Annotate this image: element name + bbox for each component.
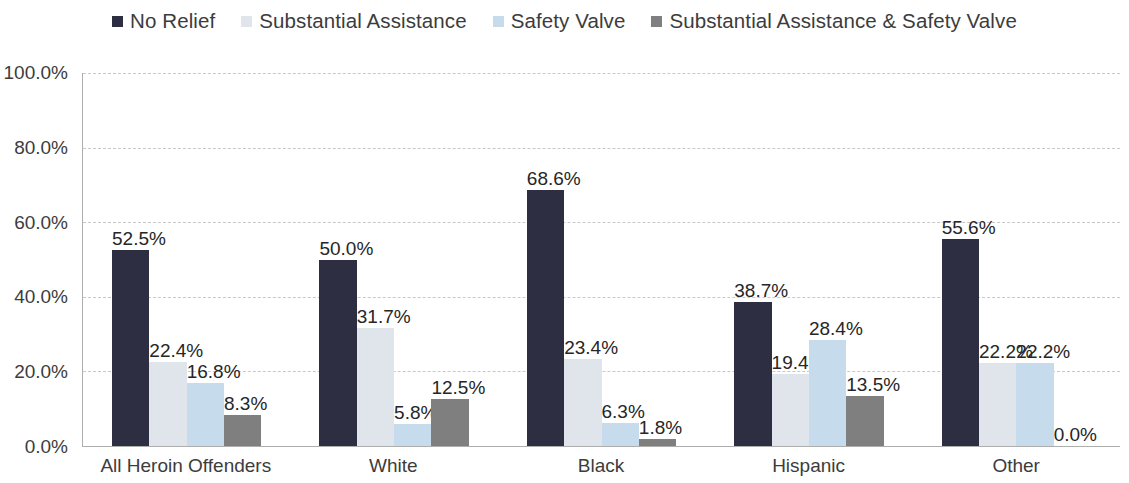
y-axis-tick-label: 80.0%	[14, 137, 68, 159]
bar[interactable]: 6.3%	[602, 423, 639, 446]
y-axis-tick-label: 100.0%	[4, 62, 68, 84]
bar-value-label: 8.3%	[224, 394, 261, 415]
bar-value-label: 52.5%	[112, 229, 149, 250]
x-axis-category-label: Other	[912, 449, 1120, 483]
bar-slot: 0.0%	[1054, 73, 1091, 446]
bar[interactable]: 52.5%	[112, 250, 149, 446]
bar-group-bars: 50.0%31.7%5.8%12.5%	[319, 73, 468, 446]
bar-group-bars: 55.6%22.2%22.2%0.0%	[942, 73, 1091, 446]
bar-slot: 22.2%	[979, 73, 1016, 446]
bar-value-label: 13.5%	[846, 375, 883, 396]
bar[interactable]: 16.8%	[187, 383, 224, 446]
legend-item[interactable]: Substantial Assistance	[241, 11, 466, 32]
bar-value-label: 5.8%	[394, 403, 431, 424]
bar[interactable]: 22.2%	[979, 363, 1016, 446]
bar[interactable]: 22.4%	[149, 362, 186, 446]
bar-value-label: 22.2%	[979, 342, 1016, 363]
bar-slot: 55.6%	[942, 73, 979, 446]
bar-slot: 16.8%	[187, 73, 224, 446]
bar-slot: 19.4%	[772, 73, 809, 446]
bar[interactable]: 19.4%	[772, 374, 809, 446]
bar[interactable]: 38.7%	[734, 302, 771, 446]
bar[interactable]: 31.7%	[357, 328, 394, 446]
bar-slot: 13.5%	[846, 73, 883, 446]
bar-value-label: 68.6%	[527, 169, 564, 190]
x-axis-category-label: All Heroin Offenders	[82, 449, 290, 483]
plot-area: 52.5%22.4%16.8%8.3%50.0%31.7%5.8%12.5%68…	[82, 73, 1120, 447]
bar-slot: 38.7%	[734, 73, 771, 446]
bar[interactable]: 13.5%	[846, 396, 883, 446]
plot-wrapper: 0.0%20.0%40.0%60.0%80.0%100.0% 52.5%22.4…	[0, 38, 1129, 483]
legend-item-label: Safety Valve	[511, 11, 626, 32]
bar-group-bars: 68.6%23.4%6.3%1.8%	[527, 73, 676, 446]
bar-value-label: 23.4%	[564, 338, 601, 359]
bar-groups: 52.5%22.4%16.8%8.3%50.0%31.7%5.8%12.5%68…	[83, 73, 1120, 446]
bar-group-bars: 38.7%19.4%28.4%13.5%	[734, 73, 883, 446]
y-axis-tick-label: 60.0%	[14, 212, 68, 234]
legend-swatch-icon	[112, 16, 123, 27]
legend-swatch-icon	[493, 16, 504, 27]
bar[interactable]: 50.0%	[319, 260, 356, 447]
bar-group: 38.7%19.4%28.4%13.5%	[705, 73, 912, 446]
bar-value-label: 12.5%	[431, 378, 468, 399]
y-axis-tick-label: 0.0%	[25, 436, 68, 458]
bar[interactable]: 55.6%	[942, 239, 979, 446]
bar-slot: 31.7%	[357, 73, 394, 446]
bar-slot: 28.4%	[809, 73, 846, 446]
y-axis: 0.0%20.0%40.0%60.0%80.0%100.0%	[0, 73, 74, 447]
bar[interactable]: 1.8%	[639, 439, 676, 446]
bar-group: 50.0%31.7%5.8%12.5%	[290, 73, 497, 446]
bar-slot: 6.3%	[602, 73, 639, 446]
legend-item-label: Substantial Assistance	[259, 11, 466, 32]
bar-value-label: 6.3%	[602, 402, 639, 423]
bar-value-label: 22.4%	[149, 341, 186, 362]
bar-slot: 52.5%	[112, 73, 149, 446]
bar-value-label: 28.4%	[809, 319, 846, 340]
bar[interactable]: 68.6%	[527, 190, 564, 446]
bar[interactable]: 23.4%	[564, 359, 601, 446]
bar-group: 52.5%22.4%16.8%8.3%	[83, 73, 290, 446]
bar-value-label: 22.2%	[1016, 342, 1053, 363]
bar-slot: 1.8%	[639, 73, 676, 446]
x-axis-category-label: Hispanic	[705, 449, 913, 483]
bar-slot: 5.8%	[394, 73, 431, 446]
y-axis-tick-label: 20.0%	[14, 361, 68, 383]
bar[interactable]: 28.4%	[809, 340, 846, 446]
legend-item[interactable]: No Relief	[112, 11, 215, 32]
bar-value-label: 19.4%	[772, 353, 809, 374]
bar-slot: 22.2%	[1016, 73, 1053, 446]
bar-value-label: 50.0%	[319, 239, 356, 260]
chart-legend: No ReliefSubstantial AssistanceSafety Va…	[0, 4, 1129, 38]
bar-value-label: 55.6%	[942, 218, 979, 239]
legend-item-label: No Relief	[130, 11, 215, 32]
bar[interactable]: 8.3%	[224, 415, 261, 446]
bar-slot: 23.4%	[564, 73, 601, 446]
legend-swatch-icon	[651, 16, 662, 27]
legend-swatch-icon	[241, 16, 252, 27]
bar-value-label: 1.8%	[639, 418, 676, 439]
bar-value-label: 0.0%	[1054, 425, 1091, 446]
legend-item[interactable]: Substantial Assistance & Safety Valve	[651, 11, 1016, 32]
bar[interactable]: 22.2%	[1016, 363, 1053, 446]
bar-slot: 68.6%	[527, 73, 564, 446]
bar-slot: 12.5%	[431, 73, 468, 446]
y-axis-tick-label: 40.0%	[14, 286, 68, 308]
bar[interactable]: 12.5%	[431, 399, 468, 446]
bar[interactable]: 5.8%	[394, 424, 431, 446]
x-axis: All Heroin OffendersWhiteBlackHispanicOt…	[82, 449, 1120, 483]
legend-item-label: Substantial Assistance & Safety Valve	[669, 11, 1016, 32]
bar-value-label: 38.7%	[734, 281, 771, 302]
bar-chart: No ReliefSubstantial AssistanceSafety Va…	[0, 0, 1129, 483]
bar-value-label: 31.7%	[357, 307, 394, 328]
x-axis-category-label: Black	[497, 449, 705, 483]
x-axis-category-label: White	[290, 449, 498, 483]
bar-slot: 8.3%	[224, 73, 261, 446]
bar-slot: 22.4%	[149, 73, 186, 446]
bar-group: 68.6%23.4%6.3%1.8%	[498, 73, 705, 446]
bar-group: 55.6%22.2%22.2%0.0%	[913, 73, 1120, 446]
bar-group-bars: 52.5%22.4%16.8%8.3%	[112, 73, 261, 446]
bar-slot: 50.0%	[319, 73, 356, 446]
legend-item[interactable]: Safety Valve	[493, 11, 626, 32]
bar-value-label: 16.8%	[187, 362, 224, 383]
